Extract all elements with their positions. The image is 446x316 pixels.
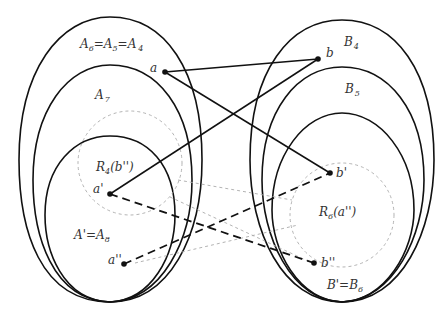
label-point-a: a [150,61,157,75]
label-point-a-dprime: a'' [108,253,122,267]
label-A-prime-A8: A'=A8 [73,228,110,244]
label-point-a-prime: a' [93,182,103,196]
label-point-b-prime: b' [336,166,347,180]
point-b-prime [327,170,333,176]
point-b-dprime [311,260,317,266]
label-B-prime-B6: B'=B6 [326,278,363,294]
label-R6: R6(a'') [318,205,357,221]
label-A6-A5-A4: A6=A5=A4 [79,37,143,53]
point-b [315,56,321,62]
label-point-b: b [326,46,334,60]
point-a-prime [107,191,113,197]
background [0,0,446,316]
point-a [162,69,168,75]
label-R4: R4(b'') [95,160,134,176]
label-point-b-dprime: b'' [321,256,335,270]
set-relation-diagram: A6=A5=A4 A7 R4(b'') A'=A8 B4 B5 R6(a'') … [0,0,446,316]
point-a-dprime [121,261,127,267]
